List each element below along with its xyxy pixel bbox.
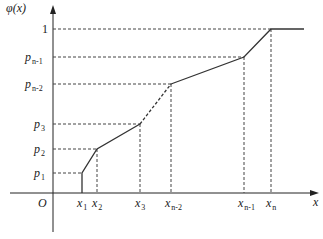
x-tick-x1: x1 bbox=[77, 197, 87, 209]
x-tick-sub: 3 bbox=[141, 203, 145, 212]
origin-label: O bbox=[38, 197, 47, 209]
x-tick-sub: 2 bbox=[98, 203, 102, 212]
x-tick-main: x bbox=[92, 196, 97, 210]
y-tick-main: p bbox=[34, 117, 40, 131]
y-tick-p-n-1: pn-1 bbox=[25, 51, 43, 63]
y-tick-sub: 1 bbox=[41, 173, 45, 182]
curve-dashed-middle bbox=[140, 84, 171, 124]
y-tick-main: p bbox=[34, 166, 40, 180]
x-tick-x-n-2: xn-2 bbox=[165, 197, 182, 209]
y-tick-main: p bbox=[25, 50, 31, 64]
y-tick-main: p bbox=[34, 142, 40, 156]
y-tick-p-n-2: pn-2 bbox=[25, 78, 43, 90]
y-tick-sub: 2 bbox=[41, 149, 45, 158]
x-tick-main: x bbox=[77, 196, 82, 210]
x-tick-x-n: xn bbox=[266, 197, 276, 209]
y-tick-1: 1 bbox=[42, 23, 48, 35]
x-tick-x3: x3 bbox=[135, 197, 145, 209]
x-tick-sub: n-1 bbox=[244, 203, 255, 212]
curve-solid-lower bbox=[82, 124, 140, 193]
x-tick-main: x bbox=[165, 196, 170, 210]
x-tick-main: x bbox=[135, 196, 140, 210]
y-axis-arrow-icon bbox=[50, 5, 56, 14]
horizontal-guides bbox=[53, 29, 271, 173]
y-tick-sub: n-2 bbox=[32, 84, 43, 93]
x-tick-sub: n bbox=[272, 203, 276, 212]
vertical-guides bbox=[97, 29, 271, 193]
y-tick-p3: p3 bbox=[34, 118, 45, 130]
y-axis-label: φ(x) bbox=[6, 2, 26, 14]
y-tick-sub: 3 bbox=[41, 124, 45, 133]
x-tick-x2: x2 bbox=[92, 197, 102, 209]
x-tick-main: x bbox=[266, 196, 271, 210]
y-tick-sub: n-1 bbox=[32, 57, 43, 66]
y-tick-main: p bbox=[25, 77, 31, 91]
x-axis-label: x bbox=[313, 196, 318, 208]
x-tick-sub: n-2 bbox=[171, 203, 182, 212]
y-tick-1-main: 1 bbox=[42, 22, 48, 36]
x-tick-x-n-1: xn-1 bbox=[238, 197, 255, 209]
y-tick-p1: p1 bbox=[34, 167, 45, 179]
x-tick-main: x bbox=[238, 196, 243, 210]
x-tick-sub: 1 bbox=[83, 203, 87, 212]
y-tick-p2: p2 bbox=[34, 143, 45, 155]
cdf-diagram: φ(x) x O 1 pn-1 pn-2 p3 p2 p1 x1 x2 x3 x… bbox=[0, 0, 323, 239]
